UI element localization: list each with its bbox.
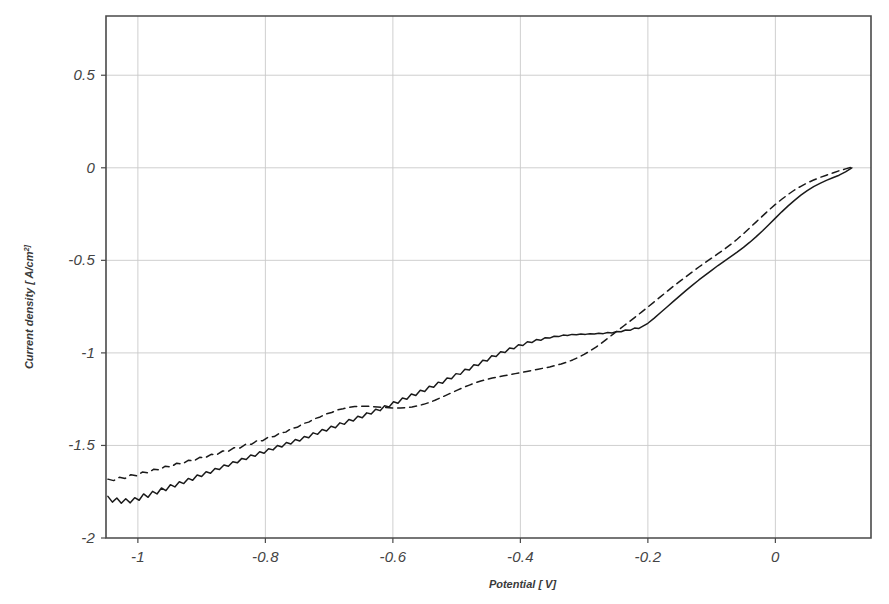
y-tick-label: -2 [81, 529, 95, 546]
x-tick-label: -0.4 [507, 548, 534, 565]
chart-figure: -1-0.8-0.6-0.4-0.20 0.50-0.5-1-1.5-2 Pot… [0, 0, 889, 604]
x-axis-title: Potential [ V] [489, 578, 557, 590]
x-tick-label: -0.6 [380, 548, 407, 565]
x-tick-label: -0.2 [635, 548, 662, 565]
y-tick-label: -0.5 [68, 251, 95, 268]
y-axis-title: Current density [ A/cm2] [22, 244, 35, 369]
y-tick-label: -1 [81, 344, 95, 361]
y-tick-label: 0 [86, 159, 95, 176]
y-axis-title-text: Current density [ A/cm2] [22, 244, 35, 369]
x-tick-label: -1 [131, 548, 145, 565]
x-tick-label: -0.8 [252, 548, 279, 565]
x-tick-label: 0 [771, 548, 780, 565]
y-tick-label: -1.5 [68, 436, 95, 453]
polarization-curve-chart: -1-0.8-0.6-0.4-0.20 0.50-0.5-1-1.5-2 Pot… [0, 0, 889, 604]
y-tick-label: 0.5 [74, 66, 96, 83]
chart-background [0, 0, 889, 604]
